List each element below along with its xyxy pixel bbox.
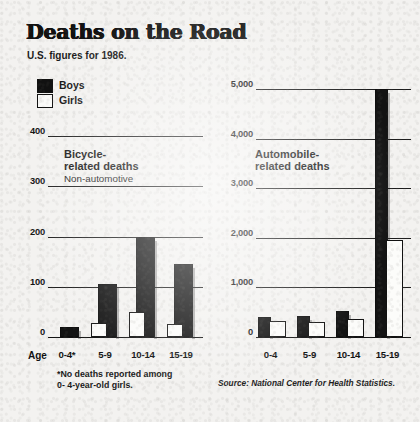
bar-shadow <box>154 241 157 340</box>
ytick-label-automobile-4000: 4,000 <box>220 129 253 139</box>
chart-automobile-related-deaths: Automobile- related deaths 01,0002,0003,… <box>210 0 420 422</box>
ytick-label-automobile-3000: 3,000 <box>220 178 253 188</box>
bar-automobile-15-19-girls <box>386 240 403 337</box>
chart-automobile-title-line2: related deaths <box>255 160 330 172</box>
ytick-label-automobile-1000: 1,000 <box>220 277 253 287</box>
bar-automobile-0-4-girls <box>269 321 286 337</box>
xtick-label-bicycle-5-9: 5-9 <box>86 349 124 360</box>
gridline-bicycle-0 <box>48 337 203 338</box>
age-caption: Age <box>28 350 47 361</box>
ytick-label-automobile-2000: 2,000 <box>220 228 253 238</box>
bar-bicycle-15-19-girls <box>167 324 183 337</box>
bar-bicycle-0-4-boys <box>60 327 79 337</box>
gridline-bicycle-200 <box>48 237 203 238</box>
bar-automobile-10-14-girls <box>347 319 364 337</box>
bar-bicycle-10-14-girls <box>129 312 145 337</box>
chart-source-note: Source: National Center for Health Stati… <box>218 378 395 388</box>
xtick-label-automobile-10-14: 10-14 <box>329 349 368 360</box>
xtick-label-automobile-5-9: 5-9 <box>290 349 329 360</box>
ytick-label-bicycle-100: 100 <box>12 277 45 287</box>
bar-shadow <box>78 331 81 339</box>
xtick-label-bicycle-0-4: 0-4* <box>48 349 86 360</box>
xtick-label-bicycle-10-14: 10-14 <box>124 349 162 360</box>
ytick-label-automobile-5000: 5,000 <box>220 79 253 89</box>
xtick-label-automobile-15-19: 15-19 <box>368 349 407 360</box>
ytick-label-bicycle-300: 300 <box>12 176 45 186</box>
ytick-label-automobile-0: 0 <box>220 327 253 337</box>
gridline-bicycle-300 <box>48 186 203 187</box>
xtick-label-automobile-0-4: 0-4 <box>251 349 290 360</box>
chart-bicycle-footnote: *No deaths reported among 0- 4-year-old … <box>57 369 172 390</box>
infographic-page: Deaths on the Road U.S. figures for 1986… <box>0 0 420 422</box>
chart-bicycle-title-line1: Bicycle- <box>64 148 106 160</box>
ytick-label-bicycle-200: 200 <box>12 227 45 237</box>
bar-automobile-5-9-girls <box>308 322 325 337</box>
ytick-label-bicycle-0: 0 <box>12 327 45 337</box>
xtick-label-bicycle-15-19: 15-19 <box>162 349 200 360</box>
chart-bicycle-subtitle: Non-automotive <box>64 173 133 184</box>
bar-shadow <box>116 288 119 339</box>
chart-bicycle-title-line2: related deaths <box>64 160 139 172</box>
chart-automobile-title-line1: Automobile- <box>255 148 319 160</box>
ytick-label-bicycle-400: 400 <box>12 126 45 136</box>
gridline-bicycle-400 <box>48 136 203 137</box>
bar-shadow <box>192 268 195 339</box>
chart-bicycle-related-deaths: Bicycle- related deaths Non-automotive 0… <box>0 0 210 422</box>
bar-bicycle-5-9-girls <box>91 323 107 337</box>
